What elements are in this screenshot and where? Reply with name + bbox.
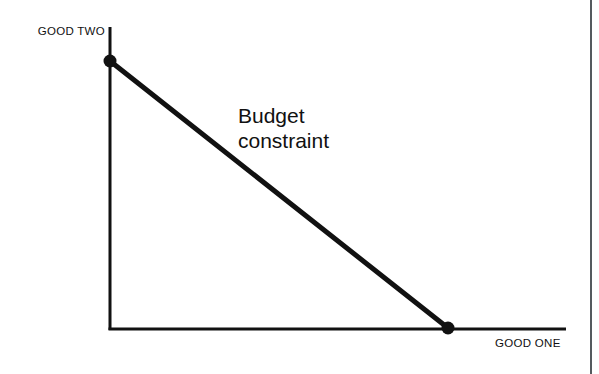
figure-right-border [590, 0, 592, 374]
budget-constraint-annotation: Budget constraint [238, 103, 329, 153]
y-axis-label: GOOD TWO [28, 26, 105, 38]
y-intercept-point [104, 55, 117, 68]
x-intercept-point [442, 322, 455, 335]
budget-constraint-plot [0, 0, 599, 374]
budget-constraint-annotation-line-2: constraint [238, 128, 329, 153]
budget-constraint-annotation-line-1: Budget [238, 103, 329, 128]
budget-constraint-series [104, 55, 455, 335]
x-axis-label: GOOD ONE [495, 338, 561, 350]
budget-constraint-line [110, 61, 448, 328]
axes-group [109, 27, 567, 330]
budget-constraint-figure: GOOD TWO GOOD ONE Budget constraint [0, 0, 599, 374]
